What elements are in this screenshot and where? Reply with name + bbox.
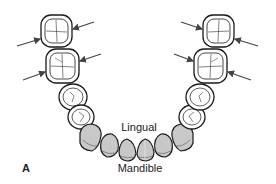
right-second-molar bbox=[203, 15, 234, 47]
right-first-molar bbox=[194, 49, 227, 83]
arrow-icon bbox=[23, 72, 45, 80]
left-canine bbox=[80, 124, 101, 151]
left-first-molar bbox=[46, 49, 79, 83]
left-posterior-teeth bbox=[41, 15, 94, 129]
arrow-icon bbox=[181, 22, 202, 29]
right-second-premolar bbox=[186, 84, 214, 110]
arrow-icon bbox=[73, 22, 94, 29]
arrow-icon bbox=[235, 39, 258, 46]
arrow-icon bbox=[80, 54, 101, 61]
arrow-icon bbox=[174, 54, 193, 61]
arrow-icon bbox=[228, 72, 251, 80]
arrow-icon bbox=[17, 39, 40, 46]
mandible-label: Mandible bbox=[118, 162, 163, 174]
mandibular-arch-diagram: Lingual Mandible A bbox=[0, 0, 276, 184]
left-second-molar bbox=[41, 15, 72, 47]
lingual-label: Lingual bbox=[121, 121, 156, 133]
panel-label: A bbox=[22, 162, 30, 174]
right-posterior-teeth bbox=[179, 15, 234, 129]
